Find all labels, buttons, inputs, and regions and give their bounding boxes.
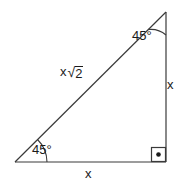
top-angle-label: 45° [132,29,152,42]
radicand-text: 2 [75,66,83,80]
radical-expression: √ 2 [68,65,84,80]
hypotenuse-label: x √ 2 [60,65,83,80]
right-leg-label: x [167,78,174,91]
bottom-leg-label: x [85,167,92,180]
triangle-figure [0,0,187,190]
right-angle-dot-icon [156,152,161,157]
radical-sign-icon: √ [68,65,76,79]
geometry-diagram: 45° 45° x x x √ 2 [0,0,187,190]
bottom-left-angle-label: 45° [32,143,52,156]
hypotenuse-base-text: x [60,65,67,78]
